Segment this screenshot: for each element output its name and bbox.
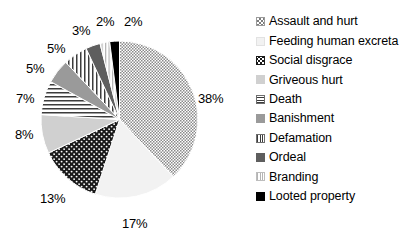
legend-swatch-social-disgrace-icon [256, 56, 265, 65]
legend-label-looted-property: Looted property [269, 190, 355, 203]
data-label-death: 7% [16, 92, 34, 105]
legend-swatch-griveous-hurt-icon [256, 75, 265, 84]
legend-item-defamation[interactable]: Defamation [256, 128, 411, 147]
legend-label-branding: Branding [269, 171, 318, 184]
data-label-assault-and-hurt: 38% [198, 92, 223, 105]
legend-label-ordeal: Ordeal [269, 151, 306, 164]
legend-label-death: Death [269, 93, 302, 106]
legend-swatch-assault-and-hurt-icon [256, 17, 265, 26]
chart-legend: Assault and hurtFeeding human excretaSoc… [256, 12, 411, 206]
legend-label-griveous-hurt: Griveous hurt [269, 74, 343, 87]
legend-label-social-disgrace: Social disgrace [269, 54, 352, 67]
pie-chart-figure: 38% 17% 13% 8% 7% 5% 5% 3% 2% 2% Assault… [0, 0, 411, 239]
data-label-griveous-hurt: 8% [15, 128, 33, 141]
legend-swatch-death-icon [256, 95, 265, 104]
legend-item-looted-property[interactable]: Looted property [256, 187, 411, 206]
legend-item-death[interactable]: Death [256, 90, 411, 109]
data-label-looted-property: 2% [124, 15, 142, 28]
legend-label-banishment: Banishment [269, 112, 334, 125]
data-label-ordeal: 3% [72, 24, 90, 37]
data-label-defamation: 5% [47, 42, 65, 55]
pie-svg [0, 0, 240, 239]
legend-label-defamation: Defamation [269, 132, 332, 145]
legend-item-ordeal[interactable]: Ordeal [256, 148, 411, 167]
legend-item-social-disgrace[interactable]: Social disgrace [256, 51, 411, 70]
legend-item-assault-and-hurt[interactable]: Assault and hurt [256, 12, 411, 31]
pie-plot-area: 38% 17% 13% 8% 7% 5% 5% 3% 2% 2% [0, 0, 240, 239]
legend-swatch-banishment-icon [256, 114, 265, 123]
legend-item-branding[interactable]: Branding [256, 167, 411, 186]
legend-swatch-ordeal-icon [256, 153, 265, 162]
legend-swatch-looted-property-icon [256, 192, 265, 201]
legend-label-feeding-human-excreta: Feeding human excreta [269, 35, 398, 48]
legend-label-assault-and-hurt: Assault and hurt [269, 15, 358, 28]
legend-item-griveous-hurt[interactable]: Griveous hurt [256, 70, 411, 89]
data-label-social-disgrace: 13% [40, 192, 65, 205]
data-label-banishment: 5% [26, 62, 44, 75]
legend-item-feeding-human-excreta[interactable]: Feeding human excreta [256, 31, 411, 50]
data-label-branding: 2% [96, 15, 114, 28]
legend-swatch-branding-icon [256, 172, 265, 181]
data-label-feeding-human-excreta: 17% [122, 217, 147, 230]
pie-slices-group [41, 41, 198, 198]
legend-swatch-defamation-icon [256, 134, 265, 143]
legend-item-banishment[interactable]: Banishment [256, 109, 411, 128]
legend-swatch-feeding-human-excreta-icon [256, 37, 265, 46]
